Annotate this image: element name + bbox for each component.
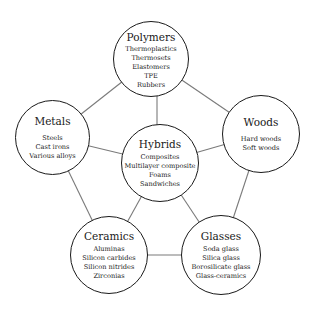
node-item: Rubbers bbox=[137, 81, 165, 90]
node-items: Aluminas Silicon carbides Silicon nitrid… bbox=[82, 245, 135, 281]
node-title: Glasses bbox=[201, 230, 241, 242]
node-items: Thermoplastics Thermosets Elastomers TPE… bbox=[125, 45, 176, 90]
node-item: Thermoplastics bbox=[125, 45, 176, 54]
node-item: Composites bbox=[141, 153, 180, 162]
node-item: Silicon nitrides bbox=[84, 263, 135, 272]
node-item: Cast irons bbox=[36, 143, 70, 152]
node-item: Soda glass bbox=[203, 245, 239, 254]
node-item: Zirconias bbox=[93, 272, 124, 281]
node-item: Elastomers bbox=[132, 63, 170, 72]
node-items: Hard woods Soft woods bbox=[241, 135, 281, 153]
node-polymers: Polymers Thermoplastics Thermosets Elast… bbox=[113, 21, 189, 97]
material-families-diagram: Polymers Thermoplastics Thermosets Elast… bbox=[0, 0, 312, 309]
node-metals: Metals Steels Cast irons Various alloys bbox=[15, 100, 90, 175]
node-item: Various alloys bbox=[29, 152, 75, 161]
node-items: Composites Multilayer composite Foams Sa… bbox=[125, 153, 196, 189]
node-item: Hard woods bbox=[241, 135, 281, 144]
node-item: Silicon carbides bbox=[82, 254, 135, 263]
node-item: Borosilicate glass bbox=[192, 263, 251, 272]
node-item: Soft woods bbox=[243, 144, 280, 153]
node-item: Multilayer composite bbox=[125, 162, 196, 171]
node-item: Glass-ceramics bbox=[196, 272, 246, 281]
node-items: Steels Cast irons Various alloys bbox=[29, 134, 75, 161]
node-title: Polymers bbox=[127, 31, 176, 43]
node-item: Sandwiches bbox=[140, 180, 180, 189]
node-item: Steels bbox=[42, 134, 62, 143]
node-title: Metals bbox=[34, 115, 70, 127]
node-woods: Woods Hard woods Soft woods bbox=[222, 95, 300, 173]
node-item: TPE bbox=[144, 72, 158, 81]
node-ceramics: Ceramics Aluminas Silicon carbides Silic… bbox=[70, 216, 148, 294]
node-item: Aluminas bbox=[93, 245, 124, 254]
node-items: Soda glass Silica glass Borosilicate gla… bbox=[192, 245, 251, 281]
node-title: Hybrids bbox=[139, 138, 181, 150]
node-item: Thermosets bbox=[131, 54, 170, 63]
node-hybrids: Hybrids Composites Multilayer composite … bbox=[121, 124, 199, 202]
node-item: Silica glass bbox=[202, 254, 240, 263]
node-title: Woods bbox=[244, 116, 279, 128]
node-item: Foams bbox=[149, 171, 171, 180]
node-glasses: Glasses Soda glass Silica glass Borosili… bbox=[181, 215, 261, 295]
node-title: Ceramics bbox=[84, 230, 134, 242]
